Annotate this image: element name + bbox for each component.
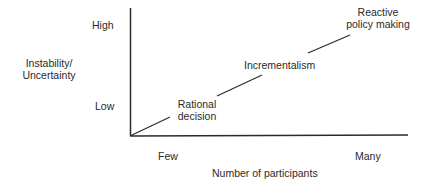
stage-label-line1: Reactive	[338, 6, 418, 18]
y-axis-title: Instability/ Uncertainty	[14, 57, 84, 81]
stage-label-line1: Rational	[172, 98, 222, 110]
y-tick-low: Low	[95, 100, 114, 112]
x-tick-few: Few	[158, 150, 178, 162]
y-axis-title-line1: Instability/	[14, 57, 84, 69]
stage-label-incrementalism: Incrementalism	[244, 59, 315, 71]
trend-segment-rational	[131, 117, 170, 136]
x-axis-line	[130, 135, 408, 136]
y-axis-title-line2: Uncertainty	[14, 69, 84, 81]
trend-segment-incremental	[217, 75, 262, 96]
x-axis-title: Number of participants	[212, 167, 318, 179]
stage-label-line2: decision	[172, 110, 222, 122]
y-tick-high: High	[92, 19, 114, 31]
trend-segment-reactive	[308, 35, 350, 53]
x-tick-many: Many	[355, 150, 381, 162]
stage-label-reactive-policy-making: Reactive policy making	[338, 6, 418, 30]
stage-label-line2: policy making	[338, 18, 418, 30]
stage-label-rational-decision: Rational decision	[172, 98, 222, 122]
